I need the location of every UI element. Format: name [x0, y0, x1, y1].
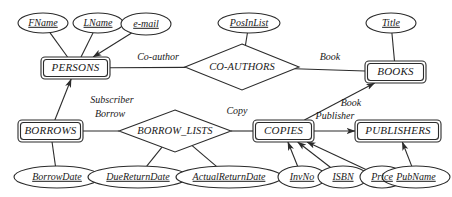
edge-label-borrow: Borrow — [95, 108, 126, 119]
relationship-label-borrow-lists: BORROW_LISTS — [137, 125, 213, 136]
connection-pubname-publishers — [402, 142, 411, 166]
attribute-label-duereturndate: DueReturnDate — [105, 171, 170, 182]
edge-label-book-label-1: Book — [320, 51, 341, 62]
relationship-label-co-authors: CO-AUTHORS — [209, 61, 275, 72]
connection-coauthors-books — [295, 69, 365, 71]
entity-label-books: BOOKS — [377, 65, 414, 77]
attribute-label-price: Price — [370, 171, 393, 182]
connection-persons-borrows — [55, 79, 71, 120]
connection-title-books — [392, 33, 395, 61]
labels-layer: PERSONSBOOKSBORROWSCOPIESPUBLISHERSCO-AU… — [24, 17, 436, 182]
shapes-layer — [14, 13, 450, 188]
connection-borrowlists-duedate — [147, 147, 162, 166]
edge-label-copy: Copy — [226, 105, 248, 116]
connection-fname-persons — [50, 33, 68, 57]
er-diagram-svg: PERSONSBOOKSBORROWSCOPIESPUBLISHERSCO-AU… — [0, 0, 452, 197]
connection-email-persons — [93, 33, 131, 57]
attribute-label-borrowdate: BorrowDate — [32, 171, 82, 182]
attribute-label-title: Title — [382, 17, 400, 28]
edge-label-book-label-2: Book — [341, 97, 362, 108]
edge-label-co-author-label: Co-author — [137, 51, 179, 62]
attribute-label-isbn: ISBN — [331, 171, 354, 182]
connection-borrows-borrowdate — [52, 142, 55, 166]
attribute-label-actualreturndate: ActualReturnDate — [192, 171, 266, 182]
connection-borrowlists-actualdate — [192, 146, 216, 167]
connection-lname-persons — [81, 33, 93, 57]
connection-invno-copies — [288, 142, 298, 166]
entity-label-publishers: PUBLISHERS — [364, 124, 431, 136]
er-diagram-canvas: PERSONSBOOKSBORROWSCOPIESPUBLISHERSCO-AU… — [0, 0, 452, 197]
attribute-label-invno: InvNo — [289, 171, 314, 182]
attribute-label-lname: LName — [83, 17, 113, 28]
edge-label-subscriber: Subscriber — [90, 94, 133, 105]
attribute-label-email: e-mail — [133, 18, 159, 29]
connection-posinlist-coauthors — [245, 33, 247, 45]
edge-label-publisher: Publisher — [315, 110, 355, 121]
attribute-label-fname: FName — [27, 17, 58, 28]
attribute-label-posinlist: PosInList — [229, 17, 269, 28]
entity-label-copies: COPIES — [264, 124, 303, 136]
entity-label-borrows: BORROWS — [24, 124, 76, 136]
entity-label-persons: PERSONS — [51, 61, 100, 73]
attribute-label-pubname: PubName — [395, 171, 436, 182]
